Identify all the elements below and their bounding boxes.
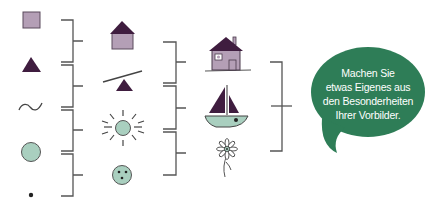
bubble-line-2: etwas Eigenes aus bbox=[318, 80, 418, 94]
flower-icon bbox=[217, 139, 238, 178]
triangle-icon bbox=[22, 57, 41, 72]
bubble-line-1: Machen Sie bbox=[318, 66, 418, 80]
speech-bubble-text: Machen Sie etwas Eigenes aus den Besonde… bbox=[318, 66, 418, 122]
bracket-final bbox=[270, 62, 292, 151]
wave-line-icon bbox=[19, 103, 42, 110]
bracket-7 bbox=[163, 132, 186, 175]
bubble-line-3: den Besonderheiten bbox=[318, 94, 418, 108]
seesaw-icon bbox=[103, 71, 142, 91]
combined-shapes-column bbox=[102, 21, 144, 185]
bracket-3 bbox=[61, 110, 83, 151]
dot-icon bbox=[29, 193, 33, 197]
bracket-2 bbox=[61, 65, 83, 107]
sailboat-icon bbox=[205, 85, 248, 127]
simple-house-icon bbox=[110, 21, 135, 49]
bracket-4 bbox=[61, 154, 83, 196]
detailed-images-column bbox=[205, 37, 251, 177]
bracket-6 bbox=[163, 86, 186, 129]
sun-icon bbox=[102, 110, 144, 146]
house-icon bbox=[205, 37, 251, 71]
bubble-line-4: Ihrer Vorbilder. bbox=[318, 108, 418, 122]
bracket-1 bbox=[61, 20, 83, 62]
face-ball-icon bbox=[113, 166, 132, 185]
bracket-5 bbox=[163, 42, 186, 83]
basic-shapes-column bbox=[19, 12, 42, 197]
brackets-col2 bbox=[163, 42, 186, 175]
circle-icon bbox=[22, 143, 41, 162]
brackets-col1 bbox=[61, 20, 83, 196]
square-icon bbox=[23, 12, 40, 28]
